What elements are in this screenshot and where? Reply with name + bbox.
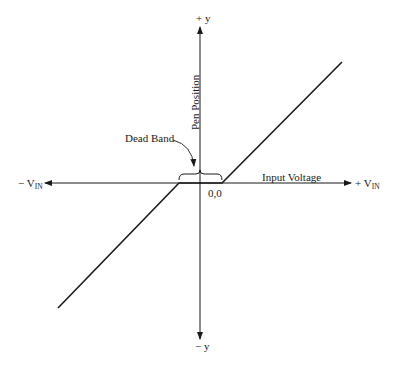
x-pos-sub: IN bbox=[372, 182, 380, 191]
x-axis-title: Input Voltage bbox=[262, 172, 321, 183]
y-neg-label: − y bbox=[195, 341, 209, 352]
x-pos-label: + VIN bbox=[355, 178, 380, 191]
x-neg-main: − V bbox=[18, 177, 35, 189]
dead-band-diagram: + y − y − VIN + VIN Input Voltage Pen Po… bbox=[0, 0, 394, 371]
dead-band-label: Dead Band bbox=[125, 133, 174, 144]
x-neg-label: − VIN bbox=[18, 178, 43, 191]
y-axis-title: Pen Position bbox=[190, 75, 201, 130]
x-neg-sub: IN bbox=[35, 182, 43, 191]
dead-band-leader bbox=[173, 140, 194, 166]
diagram-graphics bbox=[0, 0, 394, 371]
y-pos-label: + y bbox=[196, 13, 210, 24]
origin-label: 0,0 bbox=[208, 188, 222, 199]
x-pos-main: + V bbox=[355, 177, 372, 189]
